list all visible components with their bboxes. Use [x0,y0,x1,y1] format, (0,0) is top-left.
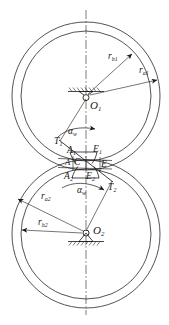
radius-b2-leader [22,230,82,233]
label-center-o2: O2 [93,225,104,238]
label-point-e2: E2 [86,172,95,183]
label-tangent-t1: T1 [54,137,62,148]
label-radius-b1: rb1 [108,52,118,63]
radius-a2-leader [18,199,83,231]
label-point-a2: A2 [64,172,73,183]
gear-2-radius-leaders [18,199,83,233]
label-pressure-angle-lower: αw [77,186,86,197]
label-center-o1: O1 [90,100,101,113]
label-radius-b2: rb2 [38,218,48,229]
label-radius-a1: ra1 [139,66,149,77]
label-point-e1: E1 [93,145,102,156]
label-point-e: E [101,160,107,170]
gear-1-center-joint [83,95,89,101]
label-pressure-angle-upper: αw [68,127,77,138]
label-tangent-t2: T2 [108,183,116,194]
label-point-c: C [74,158,80,168]
label-radius-a2: ra2 [41,192,51,203]
label-point-a: A [65,158,70,167]
label-point-a1: A1 [67,146,76,157]
gear-diagram-canvas [0,0,169,325]
gear-meshing-figure: O1 rb1 ra1 T1 αw A1 E1 A C E A2 E2 αw T2 [0,0,169,325]
radius-a1-leader [90,80,157,95]
